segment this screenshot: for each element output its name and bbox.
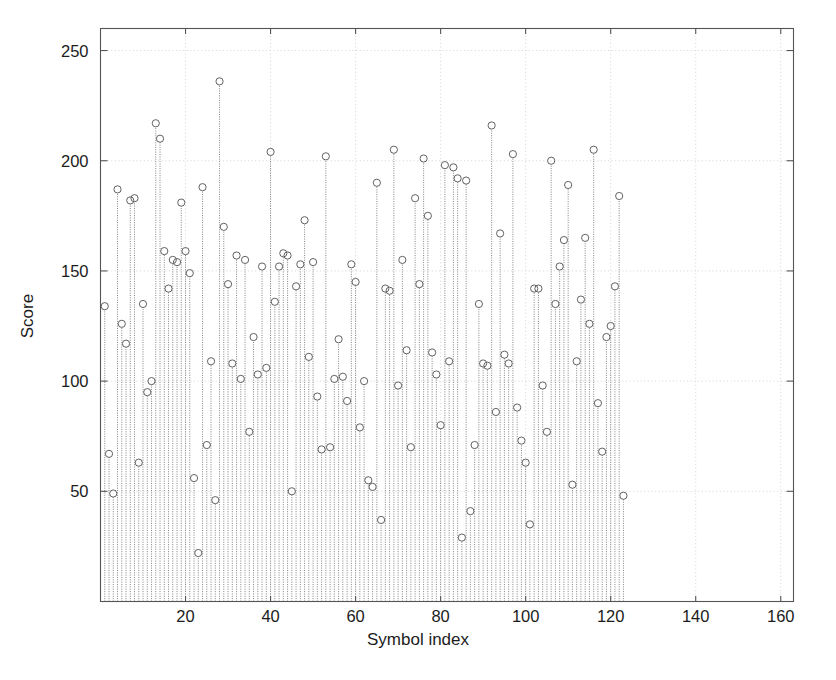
chart-figure: 20406080100120140160 50100150200250 Symb… — [0, 0, 836, 680]
y-axis-label: Score — [18, 294, 37, 338]
x-tick-label: 80 — [431, 607, 449, 625]
x-tick-label: 100 — [512, 607, 540, 625]
x-tick-label: 120 — [597, 607, 625, 625]
y-tick-label: 150 — [61, 262, 89, 280]
x-tick-label: 140 — [682, 607, 710, 625]
x-axis-label: Symbol index — [367, 630, 470, 649]
x-tick-label: 60 — [346, 607, 364, 625]
y-tick-label: 100 — [61, 372, 89, 390]
x-tick-label: 40 — [261, 607, 279, 625]
y-tick-label: 200 — [61, 152, 89, 170]
x-tick-label: 20 — [176, 607, 194, 625]
y-tick-label: 250 — [61, 42, 89, 60]
stem-plot: 20406080100120140160 50100150200250 Symb… — [0, 0, 836, 680]
y-tick-label: 50 — [70, 482, 88, 500]
x-tick-label: 160 — [767, 607, 795, 625]
